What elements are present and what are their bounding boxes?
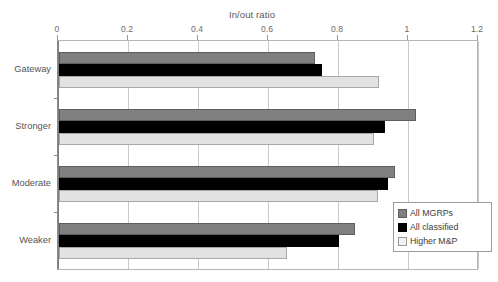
plot-area: [57, 40, 409, 270]
x-tick-label: 1: [405, 24, 410, 34]
legend-label: All classified: [410, 223, 458, 232]
bar: [59, 76, 379, 88]
legend-item: All classified: [398, 220, 488, 234]
legend-swatch-icon: [398, 237, 407, 246]
chart-legend: All MGRPsAll classifiedHigher M&P: [393, 202, 492, 252]
bar: [59, 247, 287, 259]
legend-item: All MGRPs: [398, 206, 488, 220]
legend-swatch-icon: [398, 209, 407, 218]
category-label: Gateway: [0, 64, 51, 74]
x-tick-label: 0.2: [121, 24, 133, 34]
bar: [59, 178, 388, 190]
y-tickmark: [54, 212, 58, 213]
y-tickmark: [54, 155, 58, 156]
bar: [59, 166, 395, 178]
x-tick-label: 0.4: [191, 24, 203, 34]
x-tick-label: 0: [55, 24, 60, 34]
x-tick-label: 1.2: [471, 24, 483, 34]
chart-title: In/out ratio: [57, 9, 447, 20]
x-tickmark: [477, 35, 478, 40]
category-label: Stronger: [0, 121, 51, 131]
bar: [59, 52, 315, 64]
legend-label: All MGRPs: [410, 209, 453, 218]
bar: [59, 109, 416, 121]
legend-label: Higher M&P: [410, 237, 457, 246]
x-tick-label: 0.6: [261, 24, 273, 34]
bar: [59, 190, 378, 202]
bar-chart: In/out ratio 00.20.40.60.811.2 GatewaySt…: [0, 0, 498, 282]
bar: [59, 133, 374, 145]
legend-item: Higher M&P: [398, 234, 488, 248]
bar: [59, 64, 322, 76]
category-label: Weaker: [0, 235, 51, 245]
bar: [59, 235, 339, 247]
bar: [59, 121, 385, 133]
x-axis-tick-labels: 00.20.40.60.811.2: [0, 24, 498, 37]
bar: [59, 223, 355, 235]
legend-swatch-icon: [398, 223, 407, 232]
category-label: Moderate: [0, 178, 51, 188]
x-tick-label: 0.8: [331, 24, 343, 34]
y-tickmark: [54, 98, 58, 99]
